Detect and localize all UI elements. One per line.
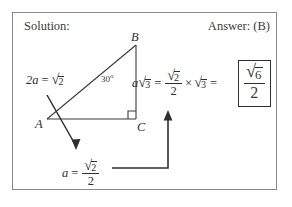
- main-equals-2: =: [210, 76, 217, 90]
- main-term2-radicand: 3: [201, 79, 207, 90]
- main-fraction: √22: [165, 67, 182, 99]
- main-term1-radicand: 3: [145, 79, 151, 90]
- answer-denominator: 2: [244, 84, 265, 102]
- main-num-sqrt: √2: [167, 67, 180, 84]
- hyp-equals: =: [42, 73, 49, 87]
- solution-figure-panel: Solution: Answer: (B) B A C 30o 2a=√2 a√: [0, 0, 292, 207]
- vertex-label-c: C: [137, 120, 145, 135]
- hyp-radicand: 2: [58, 76, 64, 87]
- vertex-label-b: B: [131, 30, 139, 45]
- bottom-num-radicand: 2: [91, 161, 97, 174]
- vertex-label-a: A: [35, 117, 43, 132]
- bottom-num-sqrt: √2: [84, 157, 97, 174]
- bottom-equals: =: [71, 166, 78, 180]
- answer-numerator: √6: [244, 61, 265, 83]
- hypotenuse-length-label: 2a=√2: [26, 72, 64, 87]
- main-term1-sqrt: √3: [138, 75, 151, 90]
- degree-symbol: o: [110, 72, 114, 80]
- main-term2-sqrt: √3: [194, 75, 207, 90]
- multiplication-sign: ×: [185, 76, 192, 90]
- right-angle-mark: [128, 111, 136, 119]
- arrow-hypotenuse-to-result: [47, 95, 81, 150]
- bottom-equation: a=√22: [62, 158, 100, 190]
- main-num-radicand: 2: [174, 71, 180, 84]
- main-fraction-numerator: √2: [165, 67, 182, 85]
- hyp-lhs: 2a: [26, 73, 39, 87]
- main-equals-1: =: [154, 76, 161, 90]
- main-expression: a√3=√22×√3=: [132, 68, 220, 100]
- main-fraction-denominator: 2: [165, 84, 182, 98]
- bottom-fraction: √22: [82, 157, 99, 189]
- angle-value: 30: [101, 74, 110, 84]
- bottom-lhs: a: [62, 166, 68, 180]
- hyp-sqrt: √2: [52, 72, 65, 87]
- answer-fraction: √62: [244, 61, 265, 102]
- bottom-denominator: 2: [82, 174, 99, 188]
- bottom-numerator: √2: [82, 157, 99, 175]
- boxed-final-answer: √62: [238, 60, 271, 107]
- answer-num-sqrt: √6: [246, 61, 263, 82]
- answer-num-radicand: 6: [255, 67, 262, 83]
- angle-label-30-degrees: 30o: [101, 72, 114, 84]
